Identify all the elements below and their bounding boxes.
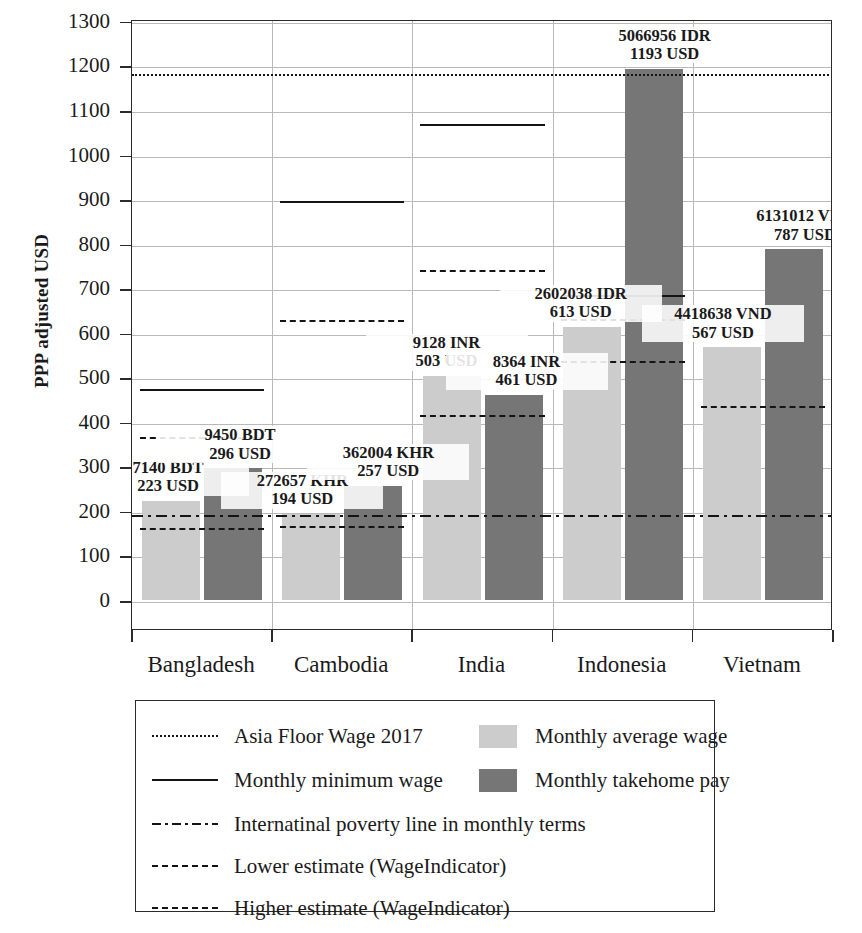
gridline-horizontal	[132, 290, 831, 291]
bar-value-local-currency: 362004 KHR	[308, 444, 468, 462]
y-axis-tick-label: 900	[10, 189, 110, 210]
legend-line-swatch	[152, 814, 218, 834]
bar-value-label: 9450 BDT296 USD	[159, 426, 321, 463]
y-axis-tick-label: 600	[10, 323, 110, 344]
legend-item-line[interactable]: Asia Floor Wage 2017	[152, 719, 423, 753]
bar-value-local-currency: 9450 BDT	[160, 426, 320, 444]
bar-value-label: 5066956 IDR1193 USD	[584, 27, 746, 64]
x-axis-tick-mark	[552, 630, 554, 642]
bar-value-label: 8364 INR461 USD	[446, 353, 608, 390]
bar-value-label: 6131012 VND787 USD	[724, 207, 831, 244]
refline-lower-estimate	[280, 526, 404, 528]
refline-lower-estimate	[140, 528, 264, 530]
y-axis-tick-mark	[120, 334, 131, 336]
legend-color-swatch	[479, 725, 517, 748]
bar-value-usd: 613 USD	[501, 303, 661, 321]
y-axis-tick-mark	[120, 200, 131, 202]
wage-comparison-chart: PPP adjusted USD 01002003004005006007008…	[0, 0, 862, 933]
legend-item-line[interactable]: Lower estimate (WageIndicator)	[152, 849, 506, 883]
y-axis-tick-mark	[120, 512, 131, 514]
y-axis-tick-label: 100	[10, 545, 110, 566]
y-axis-tick-mark	[120, 467, 131, 469]
bar-dark[interactable]	[765, 249, 823, 600]
x-axis-tick-mark	[692, 630, 694, 642]
legend-item-label: Lower estimate (WageIndicator)	[234, 854, 506, 879]
y-axis-tick-label: 400	[10, 412, 110, 433]
bar-value-usd: 1193 USD	[585, 45, 745, 63]
refline-monthly-minimum-wage	[420, 124, 544, 126]
legend-item-line[interactable]: Higher estimate (WageIndicator)	[152, 891, 510, 925]
gridline-horizontal	[132, 157, 831, 158]
legend-item-line[interactable]: Internatinal poverty line in monthly ter…	[152, 807, 586, 841]
plot-inner: 7140 BDT223 USD9450 BDT296 USD272657 KHR…	[132, 21, 831, 629]
gridline-horizontal	[132, 67, 831, 68]
bar-value-usd: 257 USD	[308, 462, 468, 480]
y-axis-tick-mark	[120, 378, 131, 380]
legend-line-glyph	[152, 735, 218, 737]
y-axis-tick-label: 800	[10, 234, 110, 255]
legend-item-series[interactable]: Monthly takehome pay	[466, 763, 730, 797]
y-axis-tick-mark	[120, 601, 131, 603]
gridline-horizontal	[132, 201, 831, 202]
bar-value-label: 2602038 IDR613 USD	[500, 285, 662, 322]
legend-item-label: Asia Floor Wage 2017	[234, 724, 423, 749]
x-axis-tick-mark	[832, 630, 834, 642]
refline-international-poverty-line	[132, 515, 831, 517]
y-axis-tick-label: 0	[10, 590, 110, 611]
refline-higher-estimate	[701, 406, 825, 408]
legend-item-label: Higher estimate (WageIndicator)	[234, 896, 510, 921]
bar-light[interactable]	[423, 376, 481, 600]
bar-value-usd: 787 USD	[725, 226, 831, 244]
legend-line-swatch	[152, 898, 218, 918]
legend-item-label: Internatinal poverty line in monthly ter…	[234, 812, 586, 837]
y-axis-tick-label: 200	[10, 501, 110, 522]
legend-item-label: Monthly takehome pay	[535, 768, 730, 793]
legend-item-label: Monthly average wage	[535, 724, 727, 749]
y-axis-tick-label: 500	[10, 367, 110, 388]
legend-item-label: Monthly minimum wage	[234, 768, 443, 793]
legend-item-line[interactable]: Monthly minimum wage	[152, 763, 443, 797]
y-axis-tick-label: 700	[10, 278, 110, 299]
y-axis-tick-mark	[120, 423, 131, 425]
x-axis-tick-mark	[271, 630, 273, 642]
gridline-horizontal	[132, 602, 831, 603]
bar-value-usd: 194 USD	[222, 490, 382, 508]
legend-color-swatch	[479, 769, 517, 792]
y-axis-tick-label: 1100	[10, 100, 110, 121]
bar-value-local-currency: 5066956 IDR	[585, 27, 745, 45]
legend-line-glyph	[152, 865, 218, 867]
refline-higher-estimate	[420, 270, 544, 272]
plot-area: 7140 BDT223 USD9450 BDT296 USD272657 KHR…	[131, 20, 832, 630]
bar-value-local-currency: 9128 INR	[367, 334, 527, 352]
bar-light[interactable]	[703, 347, 761, 600]
bar-value-usd: 461 USD	[447, 371, 607, 389]
y-axis-tick-mark	[120, 22, 131, 24]
gridline-vertical	[553, 21, 554, 629]
bar-value-local-currency: 6131012 VND	[725, 207, 831, 225]
gridline-vertical	[412, 21, 413, 629]
refline-higher-estimate	[280, 320, 404, 322]
bar-value-local-currency: 2602038 IDR	[501, 285, 661, 303]
gridline-horizontal	[132, 246, 831, 247]
gridline-horizontal	[132, 112, 831, 113]
bar-value-usd: 567 USD	[643, 324, 803, 342]
y-axis-tick-mark	[120, 156, 131, 158]
y-axis-tick-mark	[120, 556, 131, 558]
legend-item-series[interactable]: Monthly average wage	[466, 719, 727, 753]
x-axis-tick-mark	[411, 630, 413, 642]
y-axis-tick-mark	[120, 111, 131, 113]
refline-monthly-minimum-wage	[280, 201, 404, 203]
y-axis-tick-label: 1300	[10, 11, 110, 32]
bar-value-local-currency: 8364 INR	[447, 353, 607, 371]
x-axis-tick-mark	[131, 630, 133, 642]
legend-line-swatch	[152, 726, 218, 746]
bar-value-label: 362004 KHR257 USD	[307, 444, 469, 481]
legend-line-glyph	[152, 907, 218, 909]
chart-legend: Asia Floor Wage 2017Monthly minimum wage…	[135, 700, 715, 912]
y-axis-tick-mark	[120, 289, 131, 291]
bar-value-local-currency: 4418638 VND	[643, 305, 803, 323]
legend-line-swatch	[152, 770, 218, 790]
bar-dark[interactable]	[485, 395, 543, 600]
refline-asia-floor-wage	[132, 74, 831, 76]
bar-value-usd: 296 USD	[160, 445, 320, 463]
